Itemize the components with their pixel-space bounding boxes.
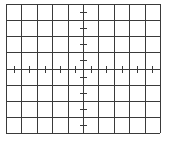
oscilloscope-graticule: [0, 0, 170, 142]
